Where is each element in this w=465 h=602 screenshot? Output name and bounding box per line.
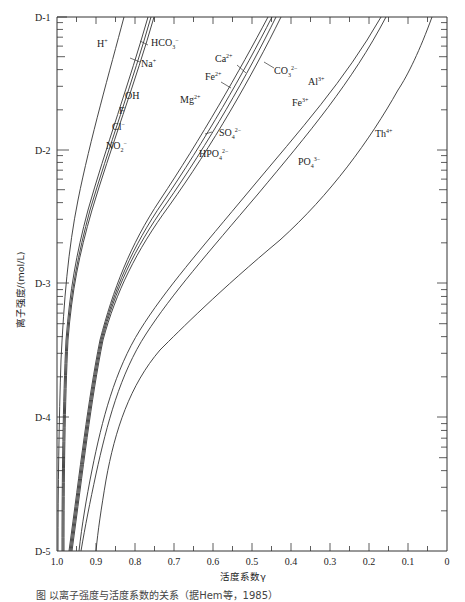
curve-fe2 xyxy=(70,17,272,551)
x-tick-label: 0.2 xyxy=(363,556,376,567)
curve-mg xyxy=(71,17,276,551)
label-hco3: HCO3− xyxy=(151,37,179,50)
x-tick-label: 0.8 xyxy=(129,556,142,567)
plot-frame xyxy=(57,17,447,551)
y-axis-title: 离子强度/(mol/L) xyxy=(15,252,26,329)
label-h: H+ xyxy=(97,38,108,49)
x-axis-title: 活度系数γ xyxy=(220,571,266,582)
x-tick-label: 0.4 xyxy=(285,556,298,567)
x-tick-label: 0.5 xyxy=(246,556,259,567)
figure-caption: 图 以离子强度与活度系数的关系（据Hem等，1985） xyxy=(36,587,278,602)
label-na: Na+ xyxy=(141,58,157,69)
y-tick-label: D-1 xyxy=(35,12,51,23)
label-po4: PO43− xyxy=(298,156,321,169)
x-tick-label: 0.9 xyxy=(90,556,103,567)
curve-co3 xyxy=(72,17,281,551)
label-hpo4: HPO42− xyxy=(199,148,229,161)
label-co3: CO32− xyxy=(274,65,298,78)
label-ca: Ca2+ xyxy=(215,53,233,64)
y-tick-label: D-5 xyxy=(35,546,51,557)
label-oh: OH xyxy=(125,90,139,101)
x-tick-label: 0.6 xyxy=(207,556,220,567)
curve-th xyxy=(96,17,432,551)
label-fe2: Fe2+ xyxy=(205,71,222,82)
curves xyxy=(58,17,432,551)
y-tick-labels: D-1 D-2 D-3 D-4 D-5 xyxy=(35,12,51,557)
label-mg: Mg2+ xyxy=(180,94,201,105)
x-tick-label: 0 xyxy=(445,556,450,567)
curve-oh xyxy=(64,17,154,551)
label-cl: Cl− xyxy=(112,121,125,132)
label-al: Al3+ xyxy=(308,76,325,87)
x-tick-label: 1.0 xyxy=(51,556,64,567)
curve-h xyxy=(58,17,124,551)
label-fe3: Fe3+ xyxy=(292,97,309,108)
y-tick-label: D-2 xyxy=(35,145,51,156)
x-tick-labels: 1.0 0.9 0.8 0.7 0.6 0.5 0.4 0.3 0.2 0.1 … xyxy=(51,556,450,567)
y-tick-label: D-3 xyxy=(35,278,51,289)
label-so4: SO42− xyxy=(219,127,242,140)
x-tick-label: 0.1 xyxy=(402,556,415,567)
label-no2: NO2− xyxy=(106,140,127,153)
x-tick-label: 0.3 xyxy=(324,556,337,567)
x-tick-label: 0.7 xyxy=(168,556,181,567)
label-th: Th4+ xyxy=(375,128,393,139)
label-f: F xyxy=(119,105,125,116)
y-tick-label: D-4 xyxy=(35,412,51,423)
